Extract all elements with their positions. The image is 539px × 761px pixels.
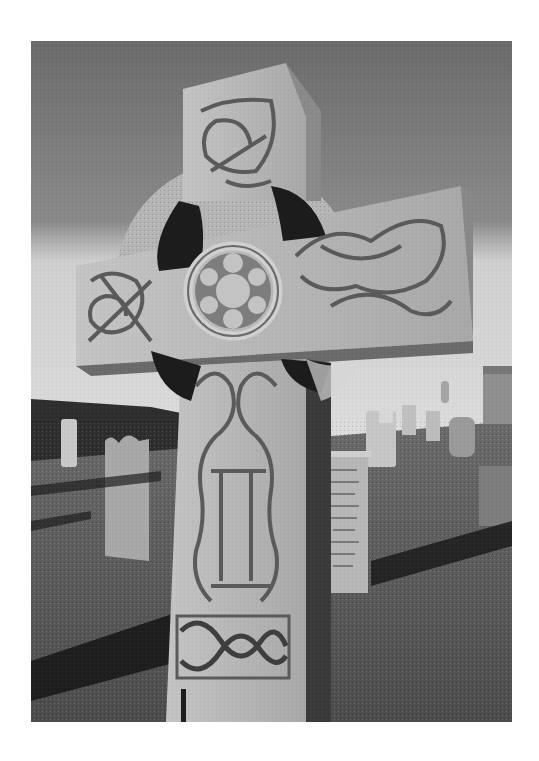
photograph <box>31 41 512 722</box>
center-roundel <box>188 246 278 336</box>
celtic-cross <box>31 41 512 722</box>
celtic-cross-photo <box>31 41 512 722</box>
